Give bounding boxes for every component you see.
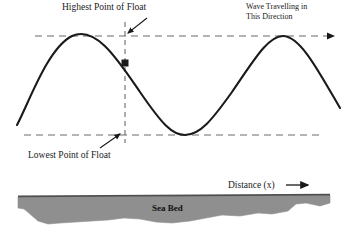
label-lowest-point-of-float: Lowest Point of Float xyxy=(28,150,111,161)
wave-curve xyxy=(17,34,340,135)
float-marker-icon xyxy=(122,60,129,67)
label-sea-bed: Sea Bed xyxy=(152,203,183,214)
arrow-down-left-icon xyxy=(128,18,147,33)
arrow-up-right-icon xyxy=(100,134,120,148)
label-wave-direction-line1: Wave Travelling in xyxy=(246,2,307,11)
label-distance-axis: Distance (x) xyxy=(228,180,275,191)
label-wave-direction-line2: This Direction xyxy=(246,12,292,21)
wave-diagram: Highest Point of Float Wave Travelling i… xyxy=(0,0,353,241)
label-highest-point-of-float: Highest Point of Float xyxy=(62,2,146,13)
label-wave-direction: Wave Travelling in This Direction xyxy=(246,2,326,23)
